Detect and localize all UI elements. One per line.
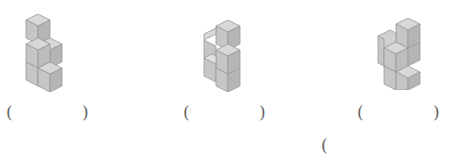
open-paren: ( [6, 104, 13, 121]
cube-figure-1 [22, 14, 74, 92]
cube-figure-3 [376, 18, 424, 90]
cube-stack-1 [22, 14, 74, 92]
open-paren: ( [321, 137, 328, 154]
open-paren: ( [357, 104, 364, 121]
answer-blank-4[interactable]: ( [321, 137, 351, 157]
answer-blank-2[interactable]: ( ) [183, 104, 267, 124]
cube-figure-2 [202, 20, 248, 92]
close-paren: ) [259, 104, 266, 121]
cube-stack-2 [202, 20, 248, 92]
cropped-instruction-text [0, 0, 476, 4]
cube [384, 42, 420, 72]
open-paren: ( [183, 104, 190, 121]
cube-stack-3 [376, 18, 424, 90]
answer-blank-3[interactable]: ( ) [357, 104, 441, 124]
close-paren: ) [433, 104, 440, 121]
answer-blank-1[interactable]: ( ) [6, 104, 90, 124]
cube [204, 54, 216, 82]
cube [384, 66, 420, 90]
cube [38, 62, 62, 92]
close-paren: ) [82, 104, 89, 121]
